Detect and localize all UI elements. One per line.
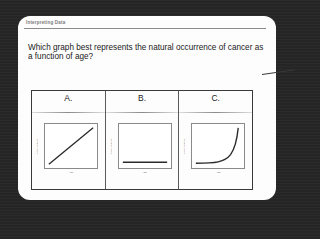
option-c[interactable]: C. Cancer Incidence Age [179,91,252,189]
graph-linear-increase [44,123,98,169]
column-header-divider [32,112,105,113]
exponential-curve-icon [192,124,244,168]
section-header: Interpreting Data [26,20,65,25]
option-a[interactable]: A. Cancer Incidence Age [32,91,106,189]
x-axis-label: Age [118,171,172,174]
option-a-label: A. [32,93,105,103]
answer-options-table: A. Cancer Incidence Age B. Cancer Incide… [31,90,253,190]
option-b[interactable]: B. Cancer Incidence Age [106,91,180,189]
x-axis-label: Age [191,171,245,174]
header-divider [24,28,266,29]
graph-flat-constant [118,123,172,169]
y-axis-label: Cancer Incidence [110,131,116,161]
linear-line-icon [45,124,97,168]
question-card: Interpreting Data Which graph best repre… [18,16,276,200]
question-text: Which graph best represents the natural … [28,43,268,61]
option-c-label: C. [179,93,252,103]
y-axis-label: Cancer Incidence [183,131,189,161]
option-b-label: B. [106,93,179,103]
flat-line-icon [119,124,171,168]
y-axis-label: Cancer Incidence [36,131,42,161]
graph-exponential-increase [191,123,245,169]
column-header-divider [106,112,179,113]
column-header-divider [179,112,252,113]
x-axis-label: Age [44,171,98,174]
